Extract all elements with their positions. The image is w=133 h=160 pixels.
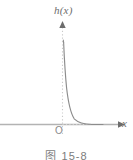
curve-h-of-x [64, 42, 103, 125]
y-axis-label: h(x) [54, 5, 73, 16]
figure-container: h(x) x O 图 15-8 [0, 0, 133, 160]
origin-label: O [55, 126, 63, 136]
plot-area [0, 0, 133, 145]
plot-svg [0, 0, 133, 145]
figure-caption: 图 15-8 [0, 147, 133, 160]
x-axis-label: x [122, 118, 127, 129]
y-axis-arrow-icon [59, 21, 65, 28]
